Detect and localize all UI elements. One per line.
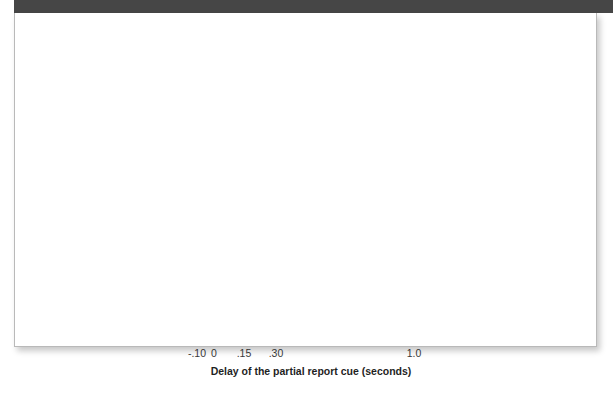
x-tick-label-neg010: -.10 bbox=[188, 347, 206, 359]
x-tick-label-10: 1.0 bbox=[407, 347, 422, 359]
x-tick-label-015: .15 bbox=[237, 347, 252, 359]
x-tick-label-030: .30 bbox=[269, 347, 284, 359]
page-card bbox=[14, 13, 597, 347]
scan-header-bar bbox=[14, 0, 613, 13]
figure-container: 0 2 4 6 8 10 12 0 25 50 75 100 -.10 0 bbox=[0, 0, 613, 407]
x-tick-label-0: 0 bbox=[211, 347, 217, 359]
x-axis-title: Delay of the partial report cue (seconds… bbox=[211, 365, 412, 377]
